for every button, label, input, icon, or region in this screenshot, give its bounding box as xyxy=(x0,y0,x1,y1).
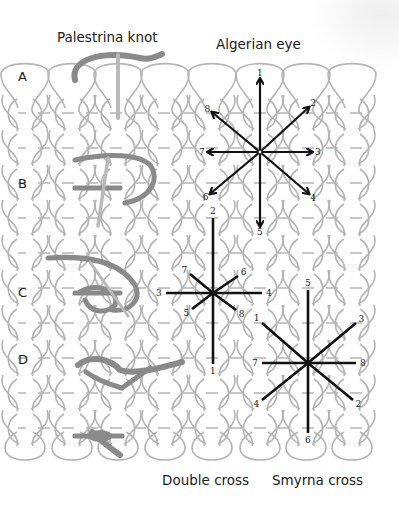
double-number: 8 xyxy=(239,309,245,319)
algerian-number: 6 xyxy=(203,192,209,202)
algerian-number: 2 xyxy=(310,98,316,108)
algerian-number: 5 xyxy=(257,227,263,237)
algerian-number: 7 xyxy=(199,147,205,157)
algerian-number: 8 xyxy=(205,104,211,114)
double-number: 2 xyxy=(210,206,216,216)
smyrna-number: 1 xyxy=(254,313,260,323)
smyrna-number: 2 xyxy=(355,399,361,409)
double-number: 4 xyxy=(266,288,272,298)
row-label-c: C xyxy=(18,285,27,300)
center-hole xyxy=(258,150,262,154)
double-line-8 xyxy=(213,293,236,310)
double-number: 3 xyxy=(156,288,162,298)
palestrina-knot-threads xyxy=(48,54,182,455)
double-number: 7 xyxy=(182,265,188,275)
knit-loop xyxy=(141,64,189,130)
title-smyrna-cross: Smyrna cross xyxy=(272,472,363,488)
knit-loop-bottom xyxy=(5,432,45,460)
smyrna-number: 7 xyxy=(252,358,258,368)
title-palestrina-knot: Palestrina knot xyxy=(57,29,158,45)
algerian-number: 4 xyxy=(310,193,316,203)
thread-strand xyxy=(78,359,182,372)
knot-bundle xyxy=(88,430,112,442)
knit-fabric-illustration: 12345678 21347658 56123478 xyxy=(0,0,399,513)
knit-loop-bottom xyxy=(145,432,185,460)
row-label-d: D xyxy=(18,352,28,367)
knit-grid xyxy=(1,64,376,460)
row-label-a: A xyxy=(18,69,27,84)
smyrna-number: 5 xyxy=(305,278,311,288)
knit-loop xyxy=(328,64,376,130)
stitch-diagram: 12345678 21347658 56123478 Palestrina kn… xyxy=(0,0,399,513)
thread-strand xyxy=(75,155,154,203)
smyrna-line-1 xyxy=(262,323,308,363)
algerian-arrow-8 xyxy=(213,113,260,152)
algerian-number: 3 xyxy=(315,147,321,157)
knit-loop-bottom xyxy=(240,432,280,460)
knit-loop-bottom xyxy=(332,432,372,460)
smyrna-line-2 xyxy=(308,363,353,400)
knit-loop xyxy=(188,64,236,130)
smyrna-number: 3 xyxy=(358,314,364,324)
double-number: 1 xyxy=(210,366,216,376)
algerian-arrow-6 xyxy=(211,152,260,193)
title-algerian-eye: Algerian eye xyxy=(216,36,301,52)
row-label-b: B xyxy=(18,176,27,191)
smyrna-line-3 xyxy=(308,323,356,363)
smyrna-number: 8 xyxy=(360,358,366,368)
knit-loop-bottom xyxy=(192,432,232,460)
algerian-arrow-4 xyxy=(260,152,308,193)
thread-strand xyxy=(98,158,108,226)
smyrna-number: 6 xyxy=(305,435,311,445)
smyrna-number: 4 xyxy=(254,399,260,409)
double-number: 6 xyxy=(241,267,247,277)
knit-loop xyxy=(282,64,330,130)
title-double-cross: Double cross xyxy=(162,472,249,488)
algerian-eye-stitch: 12345678 xyxy=(199,68,321,237)
double-number: 5 xyxy=(183,308,189,318)
algerian-number: 1 xyxy=(257,68,263,78)
